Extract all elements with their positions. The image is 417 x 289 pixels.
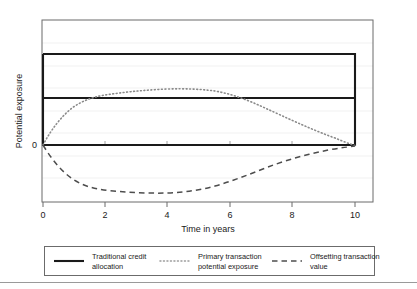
x-tick-label-2: 2 [102, 210, 107, 220]
y-tick-label-0: 0 [32, 140, 37, 150]
legend-label-1-line2: allocation [92, 262, 123, 271]
x-tick-label-0: 0 [40, 210, 45, 220]
legend-label-1-line1: Traditional credit [92, 252, 146, 261]
legend-label-2-line2: potential exposure [198, 262, 258, 271]
legend-label-3-line2: value [310, 262, 328, 271]
y-axis-label: Potential exposure [14, 74, 24, 149]
x-tick-label-6: 6 [227, 210, 232, 220]
x-axis-label: Time in years [181, 224, 235, 234]
x-tick-label-8: 8 [289, 210, 294, 220]
x-axis-ticks [43, 202, 355, 207]
legend-label-2-line1: Primary transaction [198, 252, 262, 261]
legend-label-3-line1: Offsetting transaction [310, 252, 380, 261]
legend: Traditional credit allocation Primary tr… [45, 247, 380, 276]
chart-figure: Potential exposure 0 0 2 4 6 8 10 Time i… [0, 0, 417, 289]
chart-canvas: Potential exposure 0 0 2 4 6 8 10 Time i… [0, 0, 417, 289]
x-tick-label-4: 4 [164, 210, 169, 220]
x-tick-label-10: 10 [350, 210, 360, 220]
